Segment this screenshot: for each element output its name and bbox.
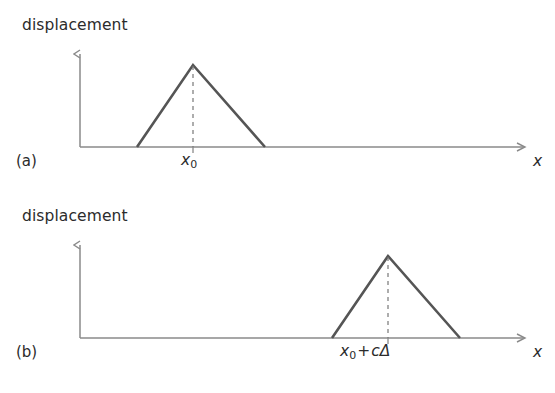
panel-a-plot: [80, 54, 524, 153]
figure-canvas: [0, 0, 555, 393]
displacement-figure: displacement (a) x0 x displacement (b) x…: [0, 0, 555, 393]
panel-b-pulse-curve: [332, 256, 460, 338]
panel-a-pulse-curve: [137, 65, 265, 147]
panel-b-plot: [80, 245, 524, 344]
